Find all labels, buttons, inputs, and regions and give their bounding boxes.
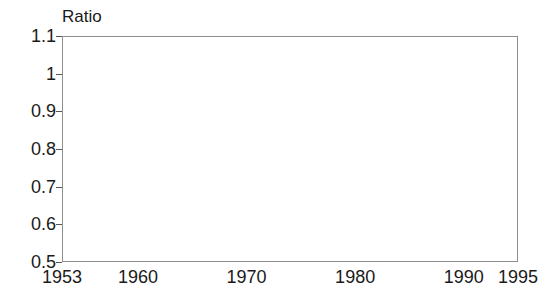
y-tick-mark <box>56 187 62 188</box>
y-tick-mark <box>56 149 62 150</box>
y-tick-label: 1.1 <box>4 27 56 45</box>
ratio-line-chart: Ratio 1.110.90.80.70.60.5 19531960197019… <box>0 0 548 300</box>
y-tick-label: 0.8 <box>4 140 56 158</box>
y-tick-label: 0.7 <box>4 178 56 196</box>
plot-frame-border <box>62 36 518 262</box>
y-tick-label: 0.6 <box>4 215 56 233</box>
x-tick-label: 1995 <box>498 266 538 288</box>
x-tick-label: 1990 <box>444 266 484 288</box>
x-tick-label: 1953 <box>42 266 82 288</box>
x-axis-tick-labels: 195319601970198019901995 <box>0 266 548 296</box>
y-axis-title: Ratio <box>62 6 102 28</box>
y-tick-mark <box>56 74 62 75</box>
y-tick-mark <box>56 262 62 263</box>
x-tick-label: 1980 <box>335 266 375 288</box>
x-tick-label: 1960 <box>118 266 158 288</box>
y-tick-mark <box>56 224 62 225</box>
x-tick-label: 1970 <box>227 266 267 288</box>
y-axis-tick-labels: 1.110.90.80.70.60.5 <box>0 0 56 300</box>
y-tick-label: 0.9 <box>4 102 56 120</box>
y-tick-label: 1 <box>4 65 56 83</box>
y-tick-mark <box>56 111 62 112</box>
y-tick-mark <box>56 36 62 37</box>
